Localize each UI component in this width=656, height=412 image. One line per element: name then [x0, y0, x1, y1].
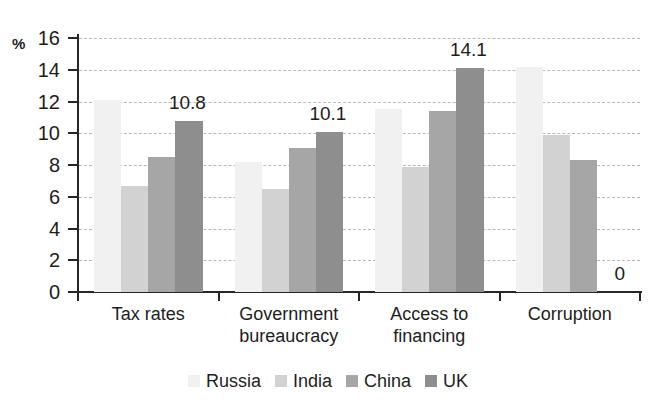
legend-swatch-icon	[275, 375, 287, 387]
bar	[570, 160, 597, 292]
legend-item[interactable]: India	[275, 372, 332, 390]
bar	[429, 111, 456, 292]
x-axis-tick	[218, 292, 220, 301]
bar	[316, 132, 343, 292]
x-axis-tick	[639, 292, 641, 301]
x-axis-tick	[499, 292, 501, 301]
plot-area	[78, 38, 640, 292]
legend-label: China	[364, 372, 411, 390]
legend-label: UK	[443, 372, 468, 390]
x-axis-label-line: Corruption	[500, 303, 641, 325]
bar	[148, 157, 175, 292]
x-axis-tick	[358, 292, 360, 301]
y-axis-tick-label: 6	[20, 187, 60, 207]
x-axis-label-line: Government	[219, 303, 360, 325]
bar	[175, 121, 202, 292]
legend-item[interactable]: UK	[425, 372, 468, 390]
y-axis-tick-label: 2	[20, 250, 60, 270]
legend-swatch-icon	[188, 375, 200, 387]
legend-item[interactable]: Russia	[188, 372, 261, 390]
legend-swatch-icon	[425, 375, 437, 387]
bar	[235, 162, 262, 292]
data-label: 14.1	[450, 40, 487, 59]
bar-chart: % 1614121086420 Tax ratesGovernmentburea…	[0, 0, 656, 412]
x-axis-category-label: Access tofinancing	[359, 303, 500, 347]
x-axis-label-line: Tax rates	[78, 303, 219, 325]
legend-item[interactable]: China	[346, 372, 411, 390]
x-axis-category-label: Corruption	[500, 303, 641, 325]
y-axis-tick-label: 10	[20, 123, 60, 143]
data-label: 10.1	[309, 104, 346, 123]
bar	[375, 109, 402, 292]
x-axis-category-label: Governmentbureaucracy	[219, 303, 360, 347]
y-axis-tick-label: 14	[20, 60, 60, 80]
bar	[516, 67, 543, 292]
y-axis-tick-label: 4	[20, 219, 60, 239]
bar	[289, 148, 316, 292]
bar	[94, 100, 121, 292]
legend-label: Russia	[206, 372, 261, 390]
legend-swatch-icon	[346, 375, 358, 387]
y-axis-tick-label: 16	[20, 28, 60, 48]
bar	[121, 186, 148, 292]
y-axis-tick-label: 0	[20, 282, 60, 302]
x-axis-category-label: Tax rates	[78, 303, 219, 325]
x-axis-label-line: Access to	[359, 303, 500, 325]
x-axis-label-line: bureaucracy	[219, 325, 360, 347]
bar	[402, 167, 429, 292]
data-label: 10.8	[169, 93, 206, 112]
y-axis-tick-label: 12	[20, 92, 60, 112]
x-axis-tick	[77, 292, 79, 301]
chart-legend: RussiaIndiaChinaUK	[0, 372, 656, 390]
x-axis-label-line: financing	[359, 325, 500, 347]
bar	[543, 135, 570, 292]
bar	[262, 189, 289, 292]
bar	[456, 68, 483, 292]
data-label: 0	[614, 264, 625, 283]
y-axis-tick-label: 8	[20, 155, 60, 175]
legend-label: India	[293, 372, 332, 390]
